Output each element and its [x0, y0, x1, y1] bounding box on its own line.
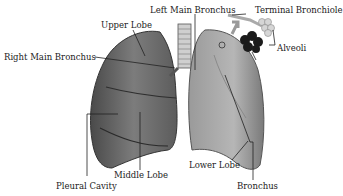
label-right-main-bronchus: Right Main Bronchus: [4, 53, 96, 62]
label-terminal-bronchiole: Terminal Bronchiole: [255, 6, 343, 15]
label-alveoli: Alveoli: [277, 44, 306, 53]
label-pleural-cavity: Pleural Cavity: [56, 182, 117, 191]
label-lower-lobe: Lower Lobe: [189, 161, 240, 170]
label-upper-lobe: Upper Lobe: [101, 21, 152, 30]
label-left-main-bronchus: Left Main Bronchus: [150, 6, 236, 15]
label-middle-lobe: Middle Lobe: [114, 171, 168, 180]
arrow-icon: [232, 22, 238, 34]
label-bronchus: Bronchus: [237, 182, 278, 191]
right-lung: [91, 31, 178, 168]
